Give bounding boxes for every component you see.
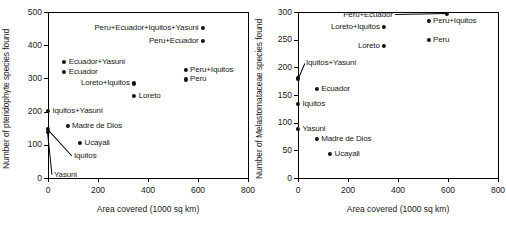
y-axis-tick-label: 400 (6, 41, 42, 50)
x-axis-tick-label: 800 (478, 186, 506, 195)
x-axis-tick (298, 178, 299, 182)
x-axis-tick-label: 400 (378, 186, 418, 195)
y-axis-tick-label: 200 (6, 107, 42, 116)
x-axis-tick (498, 178, 499, 182)
data-point-label: Peru+Iquitos (190, 66, 233, 74)
y-axis-tick (294, 123, 298, 124)
data-point-label: Loreto (358, 42, 380, 50)
y-axis-tick (294, 150, 298, 151)
y-axis-tick-label: 300 (256, 8, 292, 17)
x-axis-tick (398, 178, 399, 182)
x-axis-label-left: Area covered (1000 sq km) (48, 204, 248, 214)
data-point-label: Peru+Ecuador (343, 11, 393, 19)
y-axis-tick (44, 45, 48, 46)
y-axis-tick-label: 250 (256, 35, 292, 44)
plot-frame-right-right (498, 12, 499, 178)
data-point-label: Loreto+Iquitos (331, 23, 380, 31)
y-axis-tick-label: 150 (256, 91, 292, 100)
x-axis-tick-label: 400 (128, 186, 168, 195)
data-point-label: Peru (190, 75, 206, 83)
data-point-label: Ucayali (85, 139, 110, 147)
y-axis-tick-label: 300 (6, 74, 42, 83)
x-axis-label-right: Area covered (1000 sq km) (298, 204, 498, 214)
y-axis-tick (294, 95, 298, 96)
x-axis-tick (248, 178, 249, 182)
y-axis-tick-label: 0 (256, 174, 292, 183)
x-axis-tick-label: 600 (178, 186, 218, 195)
data-point-label: Ecuador (321, 85, 350, 93)
data-point-label: Madre de Dios (72, 122, 122, 130)
y-axis-tick (44, 12, 48, 13)
y-axis-tick (294, 12, 298, 13)
y-axis-tick-label: 200 (256, 63, 292, 72)
data-point-label: Loreto+Iquitos (81, 79, 130, 87)
panel-pteridophyte: Number of pteridophyte species found Are… (0, 0, 253, 226)
plot-frame-right-left (248, 12, 249, 178)
data-point-label: Ucayali (335, 150, 360, 158)
data-point-label: Peru+Ecuador+Iquitos+Yasuni (94, 24, 198, 32)
x-axis-tick (148, 178, 149, 182)
data-point-label: Loreto (139, 92, 161, 100)
x-axis-tick-label: 0 (28, 186, 68, 195)
data-point-label: Yasuni (303, 125, 326, 133)
x-axis-tick-label: 200 (78, 186, 118, 195)
data-point-label: Iquitos (303, 100, 326, 108)
x-axis-tick-label: 600 (428, 186, 468, 195)
data-point-label: Iquitos (74, 152, 97, 160)
y-axis-tick (294, 40, 298, 41)
data-point-label: Peru (433, 36, 449, 44)
x-axis-tick (198, 178, 199, 182)
x-axis-tick-label: 0 (278, 186, 318, 195)
plot-frame-top-right (298, 12, 498, 13)
data-point-label: Ecuador (69, 68, 98, 76)
data-point-label: Ecuador+Yasuni (69, 58, 125, 66)
figure-two-scatter-panels: Number of pteridophyte species found Are… (0, 0, 506, 226)
data-point-label: Madre de Dios (321, 135, 371, 143)
data-point-label: Peru+Ecuador (149, 37, 199, 45)
x-axis-tick (48, 178, 49, 182)
data-point-label: Yasuni (54, 171, 77, 179)
y-axis-tick-label: 0 (6, 174, 42, 183)
data-point-label: Iquitos+Yasuni (306, 59, 356, 67)
data-point-label: Peru+Iquitos (433, 17, 476, 25)
y-axis-tick-label: 500 (6, 8, 42, 17)
y-axis-tick-label: 100 (6, 140, 42, 149)
y-axis-tick (294, 67, 298, 68)
x-axis-tick (98, 178, 99, 182)
x-axis-tick-label: 200 (328, 186, 368, 195)
y-axis-tick (44, 78, 48, 79)
y-axis-tick-label: 50 (256, 146, 292, 155)
x-axis-tick (448, 178, 449, 182)
x-axis-tick (348, 178, 349, 182)
panel-melastomataceae: Number of Melastomataceae species found … (253, 0, 506, 226)
y-axis-tick-label: 100 (256, 118, 292, 127)
plot-frame-top-left (48, 12, 248, 13)
data-point-label: Iquitos+Yasuni (53, 107, 103, 115)
